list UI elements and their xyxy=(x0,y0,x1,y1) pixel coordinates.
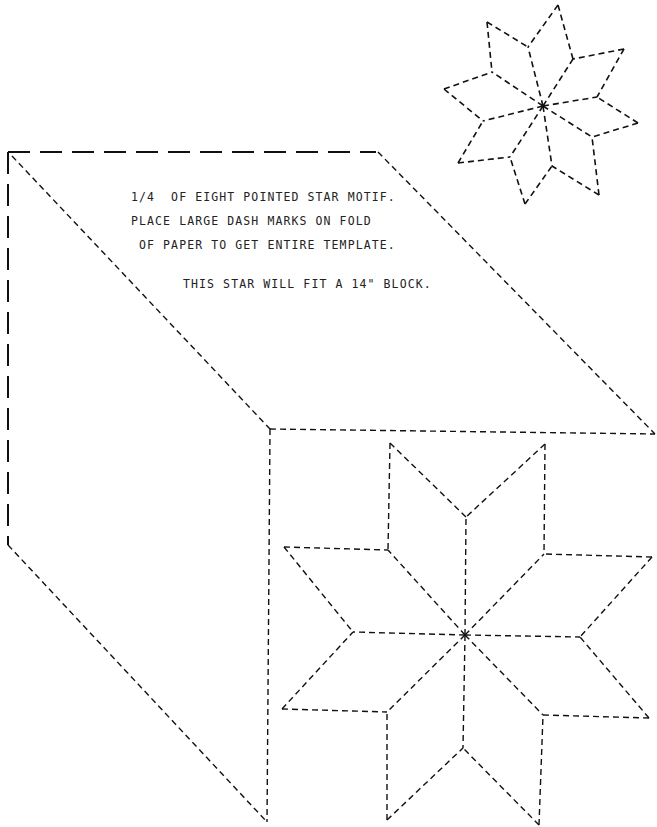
small-star-point-edge xyxy=(487,22,528,47)
large-star-point-edge xyxy=(282,709,387,712)
small-star-point-edge xyxy=(573,49,624,59)
large-star-spoke xyxy=(353,632,465,635)
large-star-point-edge xyxy=(284,547,388,550)
small-star-spoke xyxy=(492,72,543,106)
large-star-spoke xyxy=(388,550,465,635)
large-star-point-edge xyxy=(387,748,463,820)
small-star-point-edge xyxy=(444,89,483,121)
instruction-line-3: OF PAPER TO GET ENTIRE TEMPLATE. xyxy=(131,238,396,252)
cut-edge-top-diagonal xyxy=(378,152,655,434)
large-star-spoke xyxy=(463,635,465,748)
large-star-point-edge xyxy=(284,547,353,632)
small-star-point-edge xyxy=(458,121,483,163)
template-outline xyxy=(8,152,655,822)
small-star-spoke xyxy=(543,59,573,106)
large-star-spoke xyxy=(465,635,543,715)
large-star-point-edge xyxy=(539,715,543,825)
star-template-diagram xyxy=(0,0,657,827)
large-star-motif xyxy=(282,443,652,825)
small-star-point-edge xyxy=(597,49,624,97)
small-star-spoke xyxy=(543,97,597,106)
small-star-point-edge xyxy=(444,72,492,89)
small-star-point-edge xyxy=(592,137,599,195)
large-star-point-edge xyxy=(544,444,545,554)
small-star-point-edge xyxy=(458,157,510,163)
small-star-point-edge xyxy=(552,166,599,195)
large-star-point-edge xyxy=(390,443,466,517)
large-star-spoke xyxy=(465,635,580,637)
large-star-spoke xyxy=(465,517,466,635)
large-star-point-edge xyxy=(463,748,539,825)
cut-edge-vertical xyxy=(267,429,270,822)
small-star-point-edge xyxy=(558,5,573,59)
small-star-point-edge xyxy=(487,22,492,72)
small-star-spoke xyxy=(543,106,592,137)
large-star-spoke xyxy=(465,554,544,635)
large-star-point-edge xyxy=(580,637,649,718)
small-star-spoke xyxy=(510,106,543,157)
instruction-line-1: 1/4 OF EIGHT POINTED STAR MOTIF. xyxy=(131,190,396,204)
small-star-point-edge xyxy=(597,97,638,123)
small-star-point-edge xyxy=(528,5,558,47)
cut-edge-bottom-diagonal xyxy=(8,545,267,822)
instruction-line-2: PLACE LARGE DASH MARKS ON FOLD xyxy=(131,214,372,228)
small-star-motif xyxy=(444,5,638,204)
small-star-point-edge xyxy=(525,166,552,204)
large-star-spoke xyxy=(387,635,465,712)
small-star-spoke xyxy=(543,106,552,166)
small-star-point-edge xyxy=(510,157,525,204)
large-star-point-edge xyxy=(543,715,649,718)
block-size-note: THIS STAR WILL FIT A 14" BLOCK. xyxy=(183,277,432,291)
large-star-point-edge xyxy=(580,557,652,637)
small-star-point-edge xyxy=(592,123,638,137)
cut-edge-inner-horizontal xyxy=(270,429,655,434)
large-star-point-edge xyxy=(466,444,545,517)
large-star-point-edge xyxy=(388,443,390,550)
large-star-point-edge xyxy=(544,554,652,557)
large-star-point-edge xyxy=(282,632,353,709)
